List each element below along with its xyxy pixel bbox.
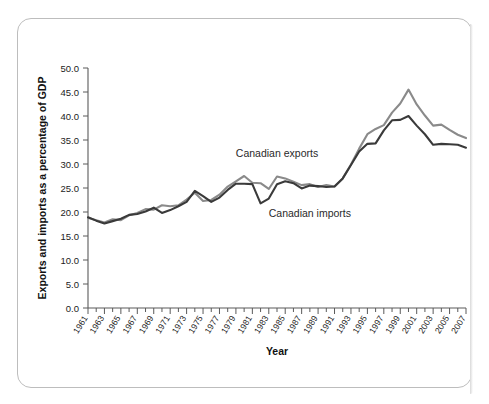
y-tick-label: 25.0 — [61, 183, 80, 194]
x-tick-label: 1973 — [170, 314, 189, 336]
x-tick-label: 1969 — [137, 314, 156, 336]
x-tick-label: 1987 — [285, 314, 304, 336]
line-chart: 0.05.010.015.020.025.030.035.040.045.050… — [0, 0, 489, 404]
y-tick-label: 40.0 — [61, 111, 80, 122]
x-axis: 1961196319651967196919711973197519771979… — [71, 308, 468, 335]
y-tick-label: 45.0 — [61, 87, 80, 98]
y-tick-label: 0.0 — [66, 303, 79, 314]
x-axis-ticks: 1961196319651967196919711973197519771979… — [71, 308, 468, 335]
annotation-canadian-imports: Canadian imports — [269, 207, 351, 219]
y-axis: 0.05.010.015.020.025.030.035.040.045.050… — [61, 63, 89, 314]
y-tick-label: 30.0 — [61, 159, 80, 170]
x-tick-label: 1975 — [186, 314, 205, 336]
y-tick-label: 20.0 — [61, 207, 80, 218]
page-root: 0.05.010.015.020.025.030.035.040.045.050… — [0, 0, 489, 404]
x-tick-label: 1997 — [367, 314, 386, 336]
x-axis-title: Year — [266, 345, 288, 357]
x-tick-label: 1965 — [104, 314, 123, 336]
x-tick-label: 1961 — [71, 314, 90, 336]
x-tick-label: 1999 — [383, 314, 402, 336]
y-tick-label: 50.0 — [61, 63, 80, 74]
x-tick-label: 1981 — [235, 314, 254, 336]
x-tick-label: 1985 — [268, 314, 287, 336]
x-tick-label: 1971 — [153, 314, 172, 336]
y-axis-ticks: 0.05.010.015.020.025.030.035.040.045.050… — [61, 63, 89, 314]
x-tick-label: 1977 — [203, 314, 222, 336]
x-tick-label: 1963 — [88, 314, 107, 336]
x-tick-label: 2007 — [449, 314, 468, 336]
x-tick-label: 1995 — [350, 314, 369, 336]
y-tick-label: 35.0 — [61, 135, 80, 146]
x-tick-label: 2005 — [433, 314, 452, 336]
x-tick-label: 1991 — [318, 314, 337, 336]
y-tick-label: 10.0 — [61, 255, 80, 266]
x-tick-label: 2001 — [400, 314, 419, 336]
x-tick-label: 2003 — [416, 314, 435, 336]
y-axis-title: Exports and imports as a percentage of G… — [36, 77, 48, 300]
x-tick-label: 1967 — [120, 314, 139, 336]
x-tick-label: 1993 — [334, 314, 353, 336]
chart-svg: 0.05.010.015.020.025.030.035.040.045.050… — [0, 0, 489, 404]
annotation-canadian-exports: Canadian exports — [236, 147, 318, 159]
y-tick-label: 5.0 — [66, 279, 79, 290]
x-tick-label: 1989 — [301, 314, 320, 336]
y-tick-label: 15.0 — [61, 231, 80, 242]
x-tick-label: 1983 — [252, 314, 271, 336]
x-tick-label: 1979 — [219, 314, 238, 336]
